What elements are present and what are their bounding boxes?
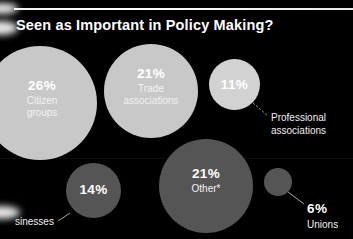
bubble-name-other: Other* [166, 183, 246, 195]
bubble-name-citizen-groups-line2: groups [6, 107, 78, 119]
bubble-label-small-businesses: 14% [66, 182, 121, 198]
callout-small-businesses: sinesses [15, 215, 54, 228]
callout-professional-associations-line2: associations [271, 124, 326, 137]
bubble-unions [264, 168, 292, 196]
bubble-value-small-businesses: 14% [66, 182, 121, 198]
leader-line-unions [288, 192, 304, 204]
bubble-label-trade-associations: 21% Trade associations [111, 66, 191, 107]
bubble-value-professional-associations: 11% [209, 77, 260, 93]
bubble-value-citizen-groups: 26% [6, 78, 78, 94]
chart-title: Seen as Important in Policy Making? [16, 17, 273, 33]
callout-small-businesses-label: sinesses [15, 215, 54, 228]
callout-professional-associations-line1: Professional [271, 111, 326, 124]
callout-professional-associations: Professional associations [271, 111, 326, 137]
bubble-value-trade-associations: 21% [111, 66, 191, 82]
header-rule [14, 8, 353, 10]
callout-unions: 6% Unions [307, 200, 338, 231]
bubble-value-other: 21% [166, 166, 246, 182]
leader-line-small-businesses [58, 213, 70, 221]
bubble-name-trade-associations-line2: associations [111, 95, 191, 107]
bubble-label-professional-associations: 11% [209, 77, 260, 93]
bubble-chart-infographic: Seen as Important in Policy Making? 26% … [0, 0, 353, 239]
callout-unions-label: Unions [307, 218, 338, 231]
bubble-label-citizen-groups: 26% Citizen groups [6, 78, 78, 119]
leader-line-professional-associations [253, 103, 268, 116]
bubble-label-other: 21% Other* [166, 166, 246, 195]
bubble-name-trade-associations-line1: Trade [111, 83, 191, 95]
bubble-name-citizen-groups-line1: Citizen [6, 95, 78, 107]
callout-unions-value: 6% [307, 200, 338, 218]
